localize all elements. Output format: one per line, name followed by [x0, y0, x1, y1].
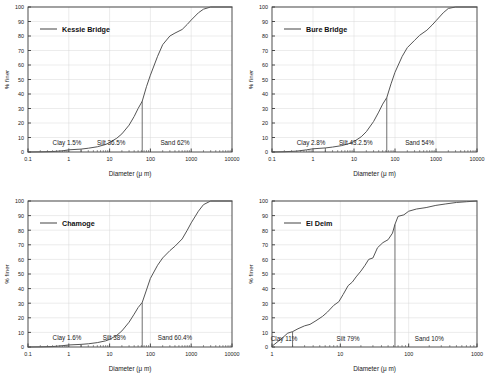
legend-label: El Deim	[306, 219, 332, 228]
x-tick-label: 10	[107, 351, 113, 357]
y-tick-label: 70	[18, 48, 24, 54]
y-tick-label: 40	[262, 286, 268, 292]
x-tick-label: 0.1	[268, 156, 276, 162]
x-tick-label: 1	[271, 351, 274, 357]
y-tick-label: 80	[18, 33, 24, 39]
y-tick-label: 60	[18, 257, 24, 263]
fraction-annotation: Clay 1.5%	[53, 139, 82, 147]
chart-panel-kessie-bridge: 01020304050607080901000.1110100100010000…	[0, 0, 244, 194]
x-tick-label: 100	[404, 351, 413, 357]
x-tick-label: 1000	[185, 351, 197, 357]
y-tick-label: 100	[259, 4, 268, 10]
y-tick-label: 0	[265, 344, 268, 350]
x-tick-label: 1000	[430, 156, 442, 162]
y-tick-label: 40	[18, 91, 24, 97]
x-axis-label: Diameter (μ m)	[109, 170, 152, 178]
x-tick-label: 10	[351, 156, 357, 162]
legend-label: Chamoge	[62, 219, 95, 228]
fraction-annotation: Sand 60.4%	[158, 334, 193, 341]
y-tick-label: 90	[262, 213, 268, 219]
fraction-annotation: Silt 79%	[337, 335, 361, 342]
x-tick-label: 100	[146, 351, 155, 357]
y-tick-label: 20	[18, 120, 24, 126]
y-tick-label: 60	[262, 62, 268, 68]
y-tick-label: 50	[262, 77, 268, 83]
chart-svg-el-deim: 01020304050607080901001101001000Diameter…	[244, 194, 489, 389]
y-tick-label: 90	[18, 213, 24, 219]
y-tick-label: 30	[18, 106, 24, 112]
y-tick-label: 0	[21, 344, 24, 350]
y-tick-label: 40	[262, 91, 268, 97]
x-axis-label: Diameter (μ m)	[109, 365, 152, 373]
y-tick-label: 70	[262, 48, 268, 54]
y-axis-label: % finer	[3, 264, 10, 283]
x-axis-label: Diameter (μ m)	[353, 170, 396, 178]
fraction-annotation: Clay 11%	[271, 335, 298, 343]
x-tick-label: 1	[67, 156, 70, 162]
y-axis-label: % finer	[247, 70, 254, 89]
chart-panel-el-deim: 01020304050607080901001101001000Diameter…	[244, 194, 489, 389]
y-tick-label: 50	[18, 271, 24, 277]
y-tick-label: 30	[262, 106, 268, 112]
fraction-annotation: Silt 43.2.5%	[339, 139, 373, 146]
fraction-annotation: Sand 62%	[160, 139, 189, 146]
y-tick-label: 10	[18, 135, 24, 141]
x-tick-label: 1000	[185, 156, 197, 162]
x-tick-label: 0.1	[24, 156, 32, 162]
distribution-curve	[272, 201, 477, 346]
y-tick-label: 20	[262, 315, 268, 321]
y-tick-label: 10	[18, 330, 24, 336]
x-tick-label: 10000	[225, 156, 240, 162]
figure-grid: 01020304050607080901000.1110100100010000…	[0, 0, 489, 389]
chart-svg-bure-bridge: 01020304050607080901000.1110100100010000…	[244, 0, 489, 194]
x-axis-label: Diameter (μ m)	[353, 365, 396, 373]
y-tick-label: 90	[262, 19, 268, 25]
y-tick-label: 50	[262, 271, 268, 277]
y-axis-label: % finer	[247, 264, 254, 283]
y-tick-label: 100	[15, 198, 24, 204]
y-tick-label: 90	[18, 19, 24, 25]
fraction-annotation: Clay 1.6%	[53, 334, 82, 342]
y-tick-label: 10	[262, 330, 268, 336]
x-tick-label: 10000	[225, 351, 240, 357]
fraction-annotation: Silt 38%	[103, 334, 127, 341]
y-tick-label: 100	[15, 4, 24, 10]
chart-panel-bure-bridge: 01020304050607080901000.1110100100010000…	[244, 0, 489, 194]
x-tick-label: 1000	[471, 351, 483, 357]
y-tick-label: 10	[262, 135, 268, 141]
chart-svg-kessie-bridge: 01020304050607080901000.1110100100010000…	[0, 0, 244, 194]
chart-panel-chamoge: 01020304050607080901000.1110100100010000…	[0, 194, 244, 389]
x-tick-label: 10000	[470, 156, 485, 162]
fraction-annotation: Clay 2.8%	[297, 139, 326, 147]
y-tick-label: 30	[18, 301, 24, 307]
x-tick-label: 10	[337, 351, 343, 357]
fraction-annotation: Sand 54%	[405, 139, 434, 146]
y-axis-label: % finer	[3, 70, 10, 89]
x-tick-label: 1	[67, 351, 70, 357]
y-tick-label: 70	[262, 242, 268, 248]
y-tick-label: 20	[262, 120, 268, 126]
fraction-annotation: Sand 10%	[415, 335, 444, 342]
x-tick-label: 100	[391, 156, 400, 162]
y-tick-label: 50	[18, 77, 24, 83]
y-tick-label: 30	[262, 301, 268, 307]
chart-svg-chamoge: 01020304050607080901000.1110100100010000…	[0, 194, 244, 389]
x-tick-label: 100	[146, 156, 155, 162]
y-tick-label: 60	[262, 257, 268, 263]
y-tick-label: 60	[18, 62, 24, 68]
y-tick-label: 0	[265, 149, 268, 155]
y-tick-label: 70	[18, 242, 24, 248]
y-tick-label: 100	[259, 198, 268, 204]
y-tick-label: 0	[21, 149, 24, 155]
fraction-annotation: Silt 36.5%	[97, 139, 126, 146]
legend-label: Kessie Bridge	[62, 25, 110, 34]
legend-label: Bure Bridge	[306, 25, 347, 34]
y-tick-label: 80	[262, 33, 268, 39]
y-tick-label: 80	[18, 228, 24, 234]
x-tick-label: 0.1	[24, 351, 32, 357]
x-tick-label: 1	[312, 156, 315, 162]
y-tick-label: 80	[262, 228, 268, 234]
x-tick-label: 10	[107, 156, 113, 162]
y-tick-label: 40	[18, 286, 24, 292]
y-tick-label: 20	[18, 315, 24, 321]
